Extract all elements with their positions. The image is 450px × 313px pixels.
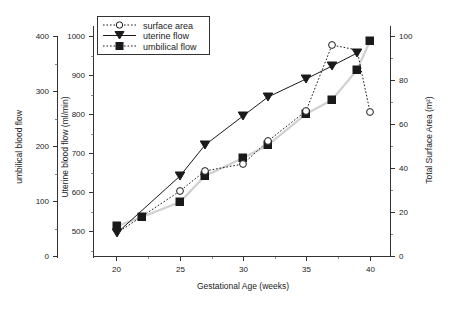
tick-surface-20: 20 (399, 208, 408, 217)
tick-umbilical-0: 0 (45, 252, 50, 261)
tick-surface-100: 100 (399, 32, 413, 41)
tick-x-25: 25 (176, 265, 185, 274)
point-umbilical-38 (353, 66, 361, 74)
tick-surface-40: 40 (399, 164, 408, 173)
tick-x-35: 35 (302, 265, 311, 274)
legend-marker-filled-square-icon (116, 43, 123, 50)
tick-uterine-800: 800 (72, 110, 86, 119)
tick-x-20: 20 (112, 265, 121, 274)
tick-surface-0: 0 (399, 252, 404, 261)
point-umbilical-40 (366, 37, 374, 45)
tick-x-40: 40 (366, 265, 375, 274)
tick-uterine-700: 700 (72, 149, 86, 158)
tick-umbilical-200: 200 (36, 142, 50, 151)
tick-uterine-600: 600 (72, 188, 86, 197)
legend-label-umbilical-flow: umbilical flow (143, 42, 197, 52)
tick-uterine-500: 500 (72, 227, 86, 236)
axis-title-umbilical: umbilical blood flow (14, 109, 24, 184)
tick-x-30: 30 (239, 265, 248, 274)
point-surface-40 (367, 109, 374, 116)
chart-figure: 400 300 200 100 0 umbilical blood flow 1… (0, 0, 450, 313)
tick-surface-80: 80 (399, 76, 408, 85)
tick-uterine-900: 900 (72, 71, 86, 80)
point-surface-32 (265, 138, 272, 145)
point-surface-34 (303, 108, 310, 115)
legend-item-umbilical-flow[interactable]: umbilical flow (103, 42, 197, 52)
point-umbilical-20 (113, 222, 121, 230)
point-umbilical-36 (328, 96, 336, 104)
tick-umbilical-300: 300 (36, 87, 50, 96)
legend-label-surface-area: surface area (143, 21, 193, 31)
point-surface-30 (240, 161, 247, 168)
point-umbilical-25 (176, 198, 184, 206)
tick-uterine-1000: 1000 (67, 32, 85, 41)
chart-svg: 400 300 200 100 0 umbilical blood flow 1… (0, 0, 450, 313)
legend-marker-open-circle-icon (116, 22, 122, 28)
point-surface-36 (329, 42, 336, 49)
legend-label-uterine-flow: uterine flow (143, 31, 190, 41)
point-surface-27 (202, 168, 209, 175)
axis-title-x: Gestational Age (weeks) (197, 281, 289, 291)
tick-umbilical-100: 100 (36, 197, 50, 206)
tick-surface-60: 60 (399, 120, 408, 129)
axis-title-surface: Total Surface Area (m²) (424, 96, 434, 184)
point-umbilical-22 (138, 213, 146, 221)
tick-umbilical-400: 400 (36, 32, 50, 41)
axis-title-uterine: Uterine blood flow (ml/min) (60, 96, 70, 197)
chart-legend: surface area uterine flow umbilical flow (98, 17, 210, 55)
point-surface-25 (177, 188, 184, 195)
